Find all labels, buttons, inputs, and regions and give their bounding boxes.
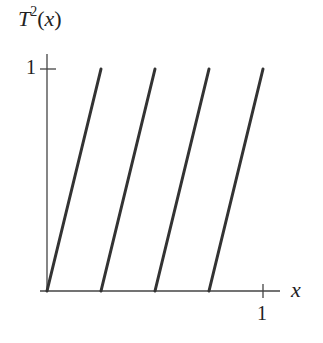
series-line-4 [209, 69, 263, 291]
series-group [47, 69, 263, 291]
plot-area [0, 0, 323, 343]
series-line-3 [155, 69, 209, 291]
series-line-2 [101, 69, 155, 291]
series-line-1 [47, 69, 101, 291]
